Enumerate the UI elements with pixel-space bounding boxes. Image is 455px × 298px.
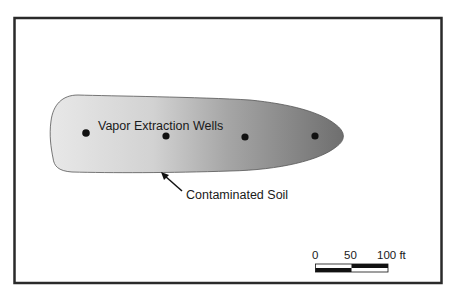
well-marker-4 [311,132,318,139]
wells-label: Vapor Extraction Wells [98,119,223,133]
contaminated-soil-label: Contaminated Soil [186,188,288,202]
site-diagram: Vapor Extraction Wells Contaminated Soil… [0,0,455,298]
scale-tick-50: 50 [344,249,357,261]
scale-tick-100: 100 ft [377,249,407,261]
well-marker-2 [162,132,169,139]
well-marker-1 [82,129,90,137]
well-marker-3 [241,133,248,140]
scale-tick-0: 0 [312,249,318,261]
